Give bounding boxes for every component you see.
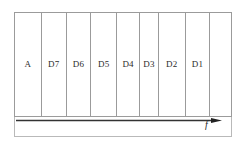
frequency-band-cell: D5 xyxy=(91,13,117,116)
frequency-band-cell xyxy=(210,13,231,116)
frequency-band-cell: D4 xyxy=(117,13,140,116)
frequency-axis-label: f xyxy=(205,120,208,130)
frequency-band-cell: D6 xyxy=(67,13,92,116)
frequency-band-label: D6 xyxy=(73,60,84,69)
frequency-band-label: D2 xyxy=(166,60,177,69)
frequency-band-cell: D3 xyxy=(140,13,159,116)
frequency-band-label: A xyxy=(25,60,32,69)
frequency-band-label: D7 xyxy=(48,60,59,69)
right-arrow-icon xyxy=(16,118,222,123)
frequency-band-diagram: AD7D6D5D4D3D2D1 f xyxy=(0,0,245,142)
frequency-band-label: D5 xyxy=(98,60,109,69)
frequency-band-cell: D1 xyxy=(186,13,211,116)
frequency-band-label: D1 xyxy=(192,60,203,69)
frequency-band-label: D4 xyxy=(122,60,133,69)
frequency-band-strip: AD7D6D5D4D3D2D1 xyxy=(14,12,232,117)
frequency-band-cell: D2 xyxy=(159,13,186,116)
frequency-band-cell: A xyxy=(15,13,42,116)
frequency-band-cell: D7 xyxy=(42,13,67,116)
frequency-axis-arrow xyxy=(16,118,222,123)
frequency-band-label: D3 xyxy=(143,60,154,69)
